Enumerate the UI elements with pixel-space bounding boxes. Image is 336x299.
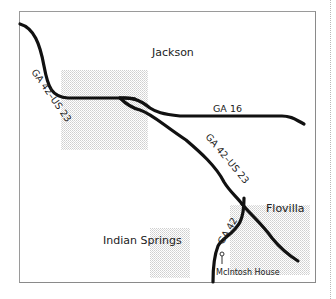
road-label-ga42-us23-se: GA 42–US 23 (203, 131, 251, 185)
poi-label-mcintosh-house: McIntosh House (216, 268, 280, 277)
town-label-indian-springs: Indian Springs (103, 234, 182, 247)
town-label-flovilla: Flovilla (266, 202, 305, 215)
town-label-jackson: Jackson (151, 46, 194, 59)
road-map: GA 42–US 23 GA 16 GA 42–US 23 GA 42 Jack… (0, 0, 336, 299)
pin-icon (220, 252, 224, 264)
road-label-ga16: GA 16 (213, 103, 242, 114)
